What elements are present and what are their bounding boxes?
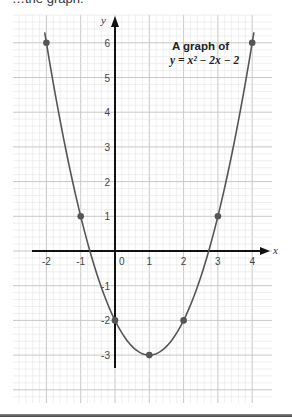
y-tick-label: 2 — [104, 177, 110, 188]
y-tick-label: 1 — [104, 211, 110, 222]
title-line-2: y = x² − 2x − 2 — [168, 54, 240, 67]
y-tick-label: -3 — [101, 350, 110, 361]
data-point — [77, 213, 84, 220]
data-point — [146, 352, 153, 359]
x-axis-arrow-icon — [260, 247, 270, 255]
x-tick-label: 4 — [249, 256, 255, 267]
x-tick-label: 2 — [181, 256, 187, 267]
data-point — [43, 40, 50, 47]
y-tick-label: 6 — [104, 38, 110, 49]
parabola-chart: x y -2-101234-3-2-1123456 A graph of y =… — [0, 0, 292, 417]
y-tick-label: -2 — [101, 315, 110, 326]
x-tick-label: -2 — [42, 256, 51, 267]
y-tick-label: 4 — [104, 107, 110, 118]
x-axis-label: x — [272, 244, 278, 256]
y-axis-arrow-icon — [111, 16, 119, 27]
data-point — [112, 317, 119, 324]
data-point — [215, 213, 222, 220]
data-point — [180, 317, 187, 324]
x-tick-label: -1 — [76, 256, 85, 267]
y-tick-label: 3 — [104, 142, 110, 153]
title-line-1: A graph of — [172, 40, 229, 52]
y-axis-label: y — [100, 14, 106, 26]
graph-title: A graph of y = x² − 2x − 2 — [168, 40, 240, 67]
axes: x y — [32, 14, 278, 368]
y-tick-label: 5 — [104, 73, 110, 84]
x-tick-label: 0 — [119, 256, 125, 267]
x-tick-label: 3 — [215, 256, 221, 267]
x-tick-label: 1 — [147, 256, 153, 267]
data-point — [249, 40, 256, 47]
